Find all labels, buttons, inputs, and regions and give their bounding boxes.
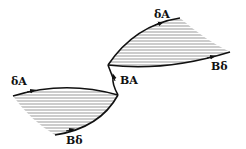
upper-top-curve [108,18,180,65]
label-upper-top: δA [154,9,170,20]
label-lower-bottom: Bδ [66,135,83,146]
lower-hatch-region [0,92,130,134]
label-connector: BA [120,75,138,86]
label-upper-bottom: Bδ [211,61,228,72]
upper-hatch-region [100,20,240,65]
label-lower-top: δA [11,76,27,87]
connector-curve [108,65,118,95]
